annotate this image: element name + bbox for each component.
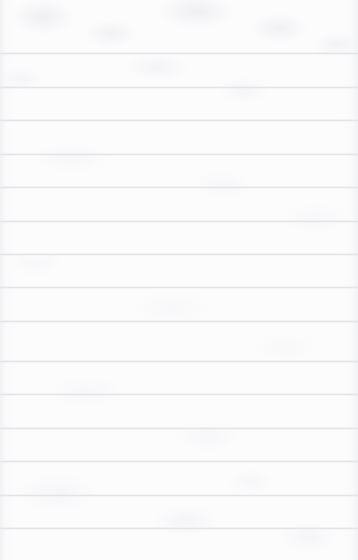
ruled-paper-sheet xyxy=(0,0,358,560)
writing-area[interactable] xyxy=(0,0,358,560)
